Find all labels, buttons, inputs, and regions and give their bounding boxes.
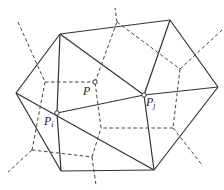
edge-c-pj (144, 87, 218, 95)
vedge-14 (173, 128, 203, 166)
point-p (93, 80, 97, 84)
vedge-7 (92, 128, 101, 157)
edge-b-pj (144, 20, 170, 95)
edge-b-c (170, 20, 218, 87)
edge-a-pi (57, 34, 60, 113)
edge-e-f (16, 93, 61, 171)
edge-f-pi-d (16, 93, 154, 170)
edge-a-b (60, 20, 170, 34)
label-pi: Pi (43, 114, 54, 129)
delaunay-voronoi-diagram: P Pi Pj (0, 0, 224, 190)
edge-a-pj (60, 34, 144, 95)
delaunay-edges (16, 20, 218, 171)
edge-f-a (16, 34, 60, 93)
label-p: P (82, 84, 91, 98)
vedge-11 (117, 22, 180, 69)
edge-pi-e (57, 113, 61, 171)
edge-d-e (61, 170, 154, 171)
edge-pi-pj (57, 95, 144, 113)
point-pi (55, 111, 59, 115)
label-pj: Pj (145, 95, 156, 110)
voronoi-edges (8, 8, 222, 185)
vedge-13 (173, 69, 180, 128)
vedge-5 (32, 150, 92, 157)
vedge-4 (8, 150, 32, 172)
vedge-10 (115, 8, 117, 22)
